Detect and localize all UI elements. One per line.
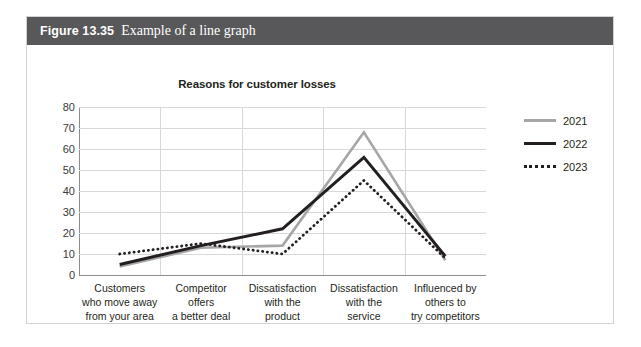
legend-swatch-2023 bbox=[524, 162, 556, 172]
y-tick-label-0: 0 bbox=[29, 269, 75, 281]
y-tick-label-50: 50 bbox=[29, 164, 75, 176]
x-axis-label-line: with the bbox=[242, 295, 323, 309]
x-axis-label-2: Competitoroffersa better deal bbox=[160, 281, 241, 323]
x-axis-label-1: Customerswho move awayfrom your area bbox=[79, 281, 160, 323]
x-axis-label-5: Influenced byothers totry competitors bbox=[405, 281, 486, 323]
x-axis-label-line: a better deal bbox=[160, 309, 241, 323]
x-axis-label-line: Dissatisfaction bbox=[242, 281, 323, 295]
x-axis-label-line: service bbox=[323, 309, 404, 323]
y-tick-label-30: 30 bbox=[29, 206, 75, 218]
legend-swatch-2021 bbox=[524, 116, 556, 126]
x-axis-label-line: Influenced by bbox=[405, 281, 486, 295]
chart-area: Reasons for customer losses 010203040506… bbox=[27, 45, 613, 325]
x-axis-label-line: try competitors bbox=[405, 309, 486, 323]
series-line-2021 bbox=[120, 132, 446, 266]
legend-swatch-2022 bbox=[524, 139, 556, 149]
plot-region bbox=[79, 107, 486, 275]
y-tick-label-70: 70 bbox=[29, 122, 75, 134]
legend-label-2022: 2022 bbox=[563, 138, 587, 150]
x-axis-label-line: who move away bbox=[79, 295, 160, 309]
gridline-0 bbox=[79, 275, 486, 276]
x-axis-label-line: offers bbox=[160, 295, 241, 309]
figure-box: Figure 13.35 Example of a line graph Rea… bbox=[26, 16, 614, 324]
y-tick-label-80: 80 bbox=[29, 101, 75, 113]
x-axis-label-line: Dissatisfaction bbox=[323, 281, 404, 295]
series-lines bbox=[79, 107, 486, 275]
y-tick-label-20: 20 bbox=[29, 227, 75, 239]
legend-item-2022[interactable]: 2022 bbox=[524, 132, 614, 155]
x-axis-label-4: Dissatisfactionwith theservice bbox=[323, 281, 404, 323]
legend-item-2023[interactable]: 2023 bbox=[524, 155, 614, 178]
x-axis-category-labels: Customerswho move awayfrom your areaComp… bbox=[79, 281, 486, 323]
figure-caption-bar: Figure 13.35 Example of a line graph bbox=[27, 17, 613, 45]
x-axis-label-line: Competitor bbox=[160, 281, 241, 295]
x-axis-label-line: product bbox=[242, 309, 323, 323]
x-axis-label-3: Dissatisfactionwith theproduct bbox=[242, 281, 323, 323]
y-tick-label-40: 40 bbox=[29, 185, 75, 197]
x-axis-label-line: with the bbox=[323, 295, 404, 309]
chart-title: Reasons for customer losses bbox=[27, 78, 487, 90]
legend-item-2021[interactable]: 2021 bbox=[524, 109, 614, 132]
legend-label-2023: 2023 bbox=[563, 161, 587, 173]
figure-caption-text: Example of a line graph bbox=[121, 23, 256, 39]
y-tick-label-60: 60 bbox=[29, 143, 75, 155]
x-axis-label-line: others to bbox=[405, 295, 486, 309]
y-tick-label-10: 10 bbox=[29, 248, 75, 260]
legend-label-2021: 2021 bbox=[563, 115, 587, 127]
figure-number: Figure 13.35 bbox=[40, 24, 114, 38]
chart-legend: 202120222023 bbox=[524, 109, 614, 178]
x-axis-label-line: from your area bbox=[79, 309, 160, 323]
y-axis-tick-labels: 01020304050607080 bbox=[27, 107, 75, 275]
x-axis-label-line: Customers bbox=[79, 281, 160, 295]
